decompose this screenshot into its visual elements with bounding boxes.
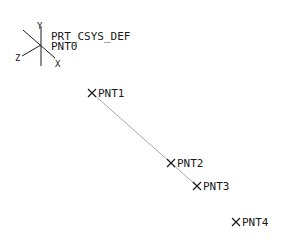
point-x-marker-icon [167,159,175,167]
csys-y-label: Y [37,21,43,31]
pnt1-label: PNT1 [98,87,125,100]
pnt4-label: PNT4 [242,216,269,229]
model-canvas[interactable]: Y Z X PRT_CSYS_DEF PNT0 PNT1 PNT2 PNT3 P… [0,0,292,247]
pnt3-label: PNT3 [203,180,230,193]
datum-curve-line[interactable] [92,93,197,186]
pnt2-label: PNT2 [177,157,204,170]
datum-point-pnt4[interactable]: PNT4 [232,216,269,229]
csys-z-label: Z [15,53,21,63]
csys-z-axis [22,45,41,56]
point-x-marker-icon [193,182,201,190]
datum-point-pnt3[interactable]: PNT3 [193,180,230,193]
point-x-marker-icon [232,218,240,226]
point-x-marker-icon [88,89,96,97]
datum-point-pnt1[interactable]: PNT1 [88,87,125,100]
csys-x-label: X [55,59,61,69]
datum-point-pnt2[interactable]: PNT2 [167,157,204,170]
pnt0-label[interactable]: PNT0 [51,40,78,53]
